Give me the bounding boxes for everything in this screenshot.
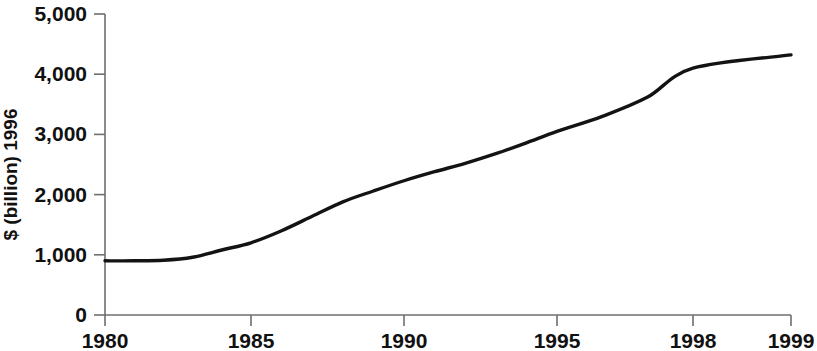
x-tick-label: 1995 [534,329,581,351]
y-axis-ticks: 01,0002,0003,0004,0005,000 [34,2,105,326]
chart-axes [105,14,791,315]
x-tick-label: 1999 [768,329,815,351]
x-tick-label: 1990 [381,329,428,351]
y-tick-label: 1,000 [34,243,87,266]
x-axis-ticks: 198019851990199519981999 [82,315,815,351]
x-tick-label: 1980 [82,329,129,351]
line-chart: 01,0002,0003,0004,0005,000 1980198519901… [0,0,817,351]
y-tick-label: 4,000 [34,62,87,85]
x-tick-label: 1985 [228,329,275,351]
y-tick-label: 2,000 [34,183,87,206]
y-tick-label: 3,000 [34,122,87,145]
y-axis-title: $ (billion) 1996 [0,109,21,241]
x-tick-label: 1998 [670,329,717,351]
y-tick-label: 5,000 [34,2,87,25]
chart-canvas: 01,0002,0003,0004,0005,000 1980198519901… [0,0,817,351]
data-series-group [105,55,791,261]
y-tick-label: 0 [75,303,87,326]
data-line-series [105,55,791,261]
